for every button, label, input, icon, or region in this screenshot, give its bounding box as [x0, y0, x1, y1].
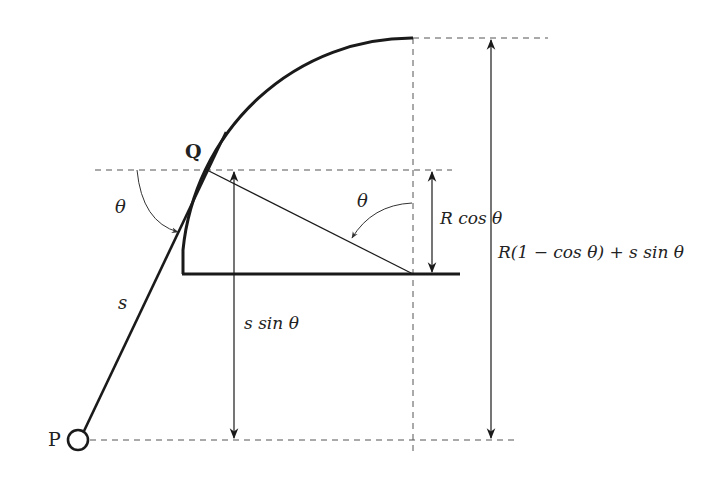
s-label: s: [118, 292, 127, 313]
point-p-label: P: [48, 428, 61, 450]
diagram-canvas: Q P θ θ s s sin θ R cos θ R(1 − cos θ) +…: [0, 0, 720, 485]
theta-left-label: θ: [115, 196, 126, 217]
arc-curve: [183, 38, 413, 274]
radius-line: [207, 170, 413, 274]
r-cos-theta-label: R cos θ: [440, 208, 502, 228]
string-line: [84, 132, 226, 431]
s-sin-theta-label: s sin θ: [244, 313, 299, 333]
total-height-label: R(1 − cos θ) + s sin θ: [498, 242, 684, 262]
theta-right-label: θ: [357, 190, 368, 211]
theta-left-arc-icon: [137, 170, 178, 232]
dashed-guides: [90, 38, 548, 452]
point-q-label: Q: [185, 140, 202, 162]
point-p-circle: [68, 430, 88, 450]
